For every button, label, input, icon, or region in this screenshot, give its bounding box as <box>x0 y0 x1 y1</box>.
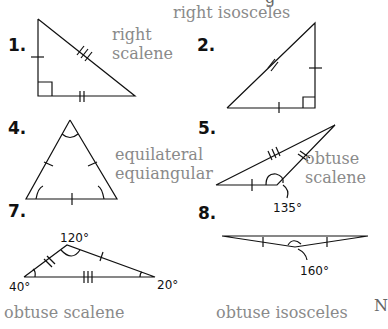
angle-label-20: 20° <box>157 278 178 292</box>
answer-4-line2: equiangular <box>115 164 213 183</box>
answer-8: obtuse isosceles <box>216 303 348 322</box>
triangle-7 <box>24 245 155 283</box>
right-edge-fragment: N <box>374 296 388 315</box>
answer-4: equilateral equiangular <box>115 145 213 183</box>
problem-number-5: 5. <box>198 118 216 138</box>
angle-label-135: 135° <box>273 201 302 215</box>
answer-1-line1: right <box>112 25 173 44</box>
answer-1: right scalene <box>112 25 173 63</box>
problem-number-7: 7. <box>8 201 26 221</box>
answer-4-line1: equilateral <box>115 145 213 164</box>
answer-5: obtuse scalene <box>305 149 366 187</box>
answer-5-line2: scalene <box>305 168 366 187</box>
answer-2: right isosceles <box>173 3 290 22</box>
angle-label-120: 120° <box>60 231 89 245</box>
problem-number-4: 4. <box>8 118 26 138</box>
triangle-2 <box>227 23 322 113</box>
answer-7: obtuse scalene <box>4 303 124 322</box>
angle-label-40: 40° <box>9 280 30 294</box>
answer-1-line2: scalene <box>112 44 173 63</box>
triangle-8 <box>222 236 368 260</box>
triangle-4 <box>26 120 117 205</box>
answer-5-line1: obtuse <box>305 149 366 168</box>
problem-number-2: 2. <box>197 35 215 55</box>
angle-label-160: 160° <box>300 264 329 278</box>
problem-number-1: 1. <box>8 35 26 55</box>
problem-number-8: 8. <box>198 203 216 223</box>
